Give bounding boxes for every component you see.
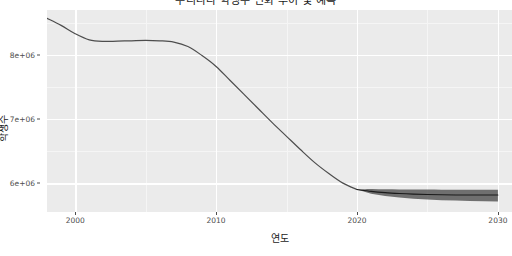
y-axis-title: 학생수	[0, 115, 10, 142]
x-tick-mark	[216, 212, 217, 215]
y-tick-mark	[37, 119, 40, 120]
plot-panel	[47, 10, 512, 212]
y-tick-label: 8e+06	[10, 50, 35, 59]
x-tick-label: 2020	[347, 216, 366, 225]
chart-figure: 우리나라 학생수 변화 추이 및 예측 6e+067e+068e+06 2000…	[0, 0, 512, 256]
y-tick-mark	[37, 183, 40, 184]
x-tick-label: 2000	[66, 216, 85, 225]
y-tick-label: 7e+06	[10, 115, 35, 124]
series-layer	[47, 10, 512, 212]
x-tick-mark	[75, 212, 76, 215]
x-tick-label: 2030	[488, 216, 507, 225]
x-tick-mark	[357, 212, 358, 215]
chart-title: 우리나라 학생수 변화 추이 및 예측	[0, 0, 512, 7]
x-tick-mark	[498, 212, 499, 215]
x-tick-label: 2010	[207, 216, 226, 225]
series-line-0	[47, 18, 357, 189]
y-tick-label: 6e+06	[10, 179, 35, 188]
x-axis-title: 연도	[47, 230, 512, 245]
y-tick-mark	[37, 54, 40, 55]
